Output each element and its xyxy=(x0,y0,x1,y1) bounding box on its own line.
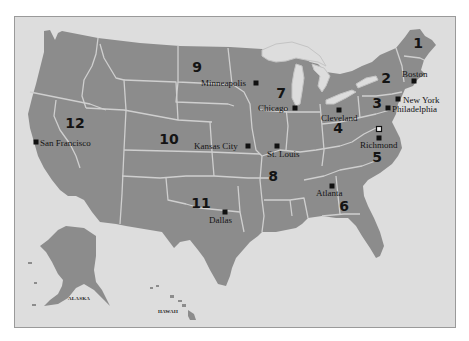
washington-dc-marker[interactable] xyxy=(377,127,382,132)
hawaii-islands xyxy=(150,285,196,320)
inset-label-hawaii: HAWAII xyxy=(158,309,178,314)
city-marker-philadelphia[interactable] xyxy=(386,106,391,111)
city-label-chicago: Chicago xyxy=(258,103,288,113)
district-number-11: 11 xyxy=(191,195,210,211)
district-number-2: 2 xyxy=(381,70,391,86)
us-map: 1 2 3 4 5 6 7 8 9 10 11 12 Boston New Yo… xyxy=(0,0,469,341)
city-label-dallas: Dallas xyxy=(209,215,232,225)
district-number-3: 3 xyxy=(372,95,382,111)
city-marker-dallas[interactable] xyxy=(223,210,228,215)
city-label-atlanta: Atlanta xyxy=(316,188,343,198)
district-number-6: 6 xyxy=(339,198,349,214)
alaska-landmass xyxy=(40,226,110,306)
city-marker-cleveland[interactable] xyxy=(337,108,342,113)
district-number-1: 1 xyxy=(413,35,423,51)
district-number-10: 10 xyxy=(159,131,179,147)
district-number-9: 9 xyxy=(192,59,202,75)
city-label-san-francisco: San Francisco xyxy=(40,138,91,148)
city-marker-minneapolis[interactable] xyxy=(254,81,259,86)
city-label-philadelphia: Philadelphia xyxy=(392,104,437,114)
inset-label-alaska: ALASKA xyxy=(68,296,90,301)
city-label-minneapolis: Minneapolis xyxy=(201,78,246,88)
city-label-st-louis: St. Louis xyxy=(267,149,300,159)
city-marker-san-francisco[interactable] xyxy=(34,140,39,145)
district-number-5: 5 xyxy=(372,149,382,165)
city-marker-st-louis[interactable] xyxy=(275,144,280,149)
city-marker-kansas-city[interactable] xyxy=(246,144,251,149)
city-marker-boston[interactable] xyxy=(412,79,417,84)
city-label-richmond: Richmond xyxy=(360,140,398,150)
district-number-12: 12 xyxy=(65,115,84,131)
aleutian-islands xyxy=(28,262,37,306)
city-label-kansas-city: Kansas City xyxy=(194,141,238,151)
city-label-cleveland: Cleveland xyxy=(321,113,358,123)
district-number-7: 7 xyxy=(276,85,286,101)
city-label-boston: Boston xyxy=(402,69,428,79)
city-marker-chicago[interactable] xyxy=(293,106,298,111)
district-number-8: 8 xyxy=(268,168,278,184)
city-marker-new-york[interactable] xyxy=(396,97,401,102)
